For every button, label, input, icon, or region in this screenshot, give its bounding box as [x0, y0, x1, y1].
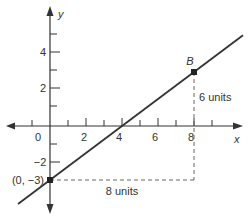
x-tick-label-4: 4: [116, 131, 122, 143]
point-b-label: B: [186, 55, 193, 67]
y-ticks: [50, 34, 60, 162]
y-tick-label-2: 2: [40, 82, 46, 94]
x-tick-label-6: 6: [152, 131, 158, 143]
line-graph-figure: 0 2 4 6 8 4 2 −2 y x (0, −3) B 6 units 8…: [0, 0, 249, 218]
y-intercept-label: (0, −3): [12, 174, 44, 186]
x-axis-left-arrow-icon: [6, 123, 15, 130]
x-tick-label-0: 0: [35, 131, 41, 143]
y-axis-label: y: [57, 8, 65, 20]
y-axis-down-arrow-icon: [47, 204, 54, 214]
y-tick-label-4: 4: [40, 46, 46, 58]
point-b: [191, 69, 197, 75]
y-axis-up-arrow-icon: [47, 6, 54, 16]
y-tick-label-minus-2: −2: [34, 156, 47, 168]
rise-label: 6 units: [199, 91, 232, 103]
run-label: 8 units: [106, 185, 139, 197]
x-tick-label-2: 2: [81, 131, 87, 143]
x-ticks: [32, 118, 212, 126]
x-tick-label-8: 8: [188, 131, 194, 143]
point-y-intercept: [47, 177, 53, 183]
x-axis-right-arrow-icon: [233, 123, 243, 130]
x-axis-label: x: [233, 133, 240, 145]
